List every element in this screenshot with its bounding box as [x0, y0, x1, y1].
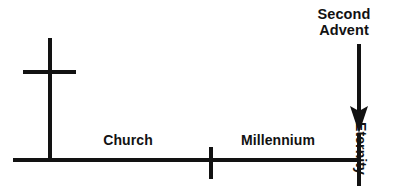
- second-advent-label: Second Advent: [303, 6, 385, 38]
- church-period-label: Church: [86, 133, 170, 149]
- millennium-period-label: Millennium: [222, 133, 334, 149]
- timeline-diagram: Second Advent Church Millennium Eternity: [0, 0, 407, 195]
- second-advent-label-line2: Advent: [303, 22, 385, 38]
- eternity-period-label: Eternity: [352, 122, 368, 192]
- second-advent-label-line1: Second: [303, 6, 385, 22]
